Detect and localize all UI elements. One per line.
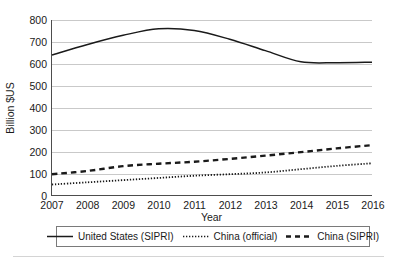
x-axis-tick-label: 2011 bbox=[183, 200, 206, 211]
legend-label: China (SIPRI) bbox=[317, 232, 379, 242]
x-axis-tick-label: 2015 bbox=[326, 200, 349, 211]
series-line bbox=[52, 163, 372, 184]
legend-label: United States (SIPRI) bbox=[78, 232, 174, 242]
plot-area: 0100200300400500600700800 20072008200920… bbox=[51, 20, 372, 196]
legend-swatch-solid-icon bbox=[47, 232, 73, 241]
y-axis-tick-label: 200 bbox=[29, 147, 47, 158]
x-axis-label: Year bbox=[51, 211, 372, 223]
figure: Billion $US 0100200300400500600700800 20… bbox=[0, 0, 396, 265]
legend-swatch-dashed-icon bbox=[286, 232, 312, 241]
legend-label: China (official) bbox=[214, 232, 278, 242]
y-axis-tick-label: 500 bbox=[29, 81, 47, 92]
legend-item-united-states-sipri: United States (SIPRI) bbox=[47, 232, 174, 242]
chart-legend: United States (SIPRI) China (official) C… bbox=[56, 226, 370, 247]
legend-item-china-official: China (official) bbox=[183, 232, 278, 242]
x-axis-tick-label: 2007 bbox=[40, 200, 63, 211]
legend-swatch-dotted-icon bbox=[183, 232, 209, 241]
series-line bbox=[52, 145, 372, 174]
x-axis-tick-label: 2013 bbox=[254, 200, 277, 211]
x-axis-tick-label: 2012 bbox=[219, 200, 242, 211]
x-axis-tick-label: 2014 bbox=[290, 200, 313, 211]
y-axis-tick-label: 400 bbox=[29, 103, 47, 114]
chart-lines bbox=[52, 20, 372, 195]
x-axis-tick-label: 2009 bbox=[112, 200, 135, 211]
y-axis-tick-label: 800 bbox=[29, 15, 47, 26]
y-axis-tick-label: 300 bbox=[29, 125, 47, 136]
y-axis-label: Billion $US bbox=[4, 82, 16, 133]
legend-item-china-sipri: China (SIPRI) bbox=[286, 232, 379, 242]
y-axis-tick-label: 700 bbox=[29, 37, 47, 48]
series-line bbox=[52, 28, 372, 63]
footer-rule bbox=[13, 256, 384, 257]
x-axis-tick-label: 2010 bbox=[147, 200, 170, 211]
y-axis-tick-label: 100 bbox=[29, 169, 47, 180]
x-axis-tick-label: 2016 bbox=[361, 200, 384, 211]
y-axis-tick-label: 600 bbox=[29, 59, 47, 70]
x-axis-tick-label: 2008 bbox=[76, 200, 99, 211]
